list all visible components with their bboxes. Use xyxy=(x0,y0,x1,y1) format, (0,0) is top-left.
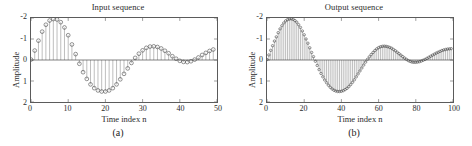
y-tick-label: -2 xyxy=(239,12,263,21)
x-tick-label: 60 xyxy=(375,104,383,113)
subplot-panel-b: Output sequence Amplitude 020406080100 2… xyxy=(236,0,472,146)
x-tick-label: 10 xyxy=(64,104,72,113)
panel-a-plot-area xyxy=(30,17,218,103)
y-tick-label: 1 xyxy=(239,77,263,86)
y-tick-label: -1 xyxy=(239,34,263,43)
panel-a-sublabel: (a) xyxy=(0,127,236,138)
stem-lines xyxy=(31,19,213,91)
x-tick-label: 30 xyxy=(139,104,147,113)
panel-a-title: Input sequence xyxy=(0,2,236,12)
y-tick-label: -2 xyxy=(3,12,27,21)
y-tick-label: 2 xyxy=(239,98,263,107)
panel-b-stem-plot xyxy=(267,18,453,102)
x-tick-label: 40 xyxy=(176,104,184,113)
stem-lines xyxy=(267,19,451,92)
y-tick-label: 0 xyxy=(3,55,27,64)
data-markers xyxy=(31,18,215,93)
figure-root: Input sequence Amplitude 01020304050 210… xyxy=(0,0,472,146)
x-tick-label: 20 xyxy=(101,104,109,113)
panel-b-title: Output sequence xyxy=(236,2,472,12)
x-tick-label: 80 xyxy=(412,104,420,113)
subplot-panel-a: Input sequence Amplitude 01020304050 210… xyxy=(0,0,236,146)
panel-a-stem-plot xyxy=(31,18,217,102)
x-tick-label: 50 xyxy=(214,104,222,113)
panel-a-x-axis-label: Time index n xyxy=(30,114,218,124)
y-tick-label: 2 xyxy=(3,98,27,107)
panel-b-plot-area xyxy=(266,17,454,103)
panel-b-sublabel: (b) xyxy=(236,127,472,138)
x-tick-label: 100 xyxy=(448,104,460,113)
y-tick-label: 1 xyxy=(3,77,27,86)
x-tick-label: 0 xyxy=(264,104,268,113)
y-tick-label: 0 xyxy=(239,55,263,64)
x-tick-label: 40 xyxy=(337,104,345,113)
panel-b-x-axis-label: Time index n xyxy=(266,114,454,124)
x-tick-label: 20 xyxy=(300,104,308,113)
x-tick-label: 0 xyxy=(28,104,32,113)
y-tick-label: -1 xyxy=(3,34,27,43)
